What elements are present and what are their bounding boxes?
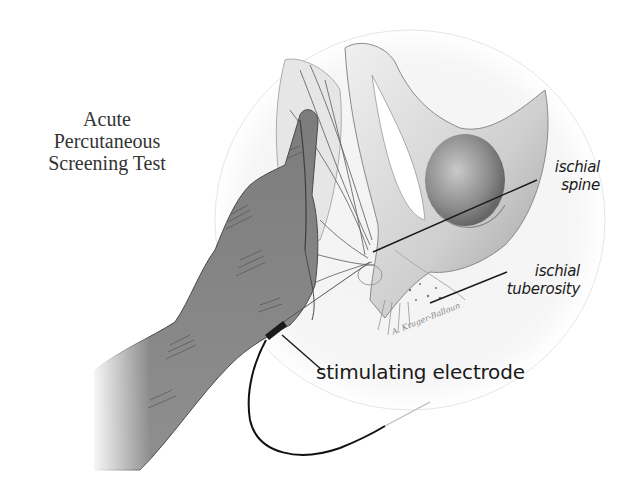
label-ischial-tuberosity: ischial tuberosity <box>498 262 580 298</box>
illustration: Acute Percutaneous Screening Test ischia… <box>0 0 625 487</box>
label-ischial-spine-line-2: spine <box>536 176 600 194</box>
label-ischial-spine-line-1: ischial <box>536 158 600 176</box>
title-line-2: Percutaneous <box>22 130 192 152</box>
title-line-3: Screening Test <box>22 152 192 174</box>
figure-title: Acute Percutaneous Screening Test <box>22 108 192 174</box>
label-stimulating-electrode: stimulating electrode <box>316 360 525 384</box>
anatomy-illustration <box>0 0 625 487</box>
label-ischial-spine: ischial spine <box>536 158 600 194</box>
title-line-1: Acute <box>22 108 192 130</box>
label-ischial-tuberosity-line-2: tuberosity <box>498 280 580 298</box>
label-ischial-tuberosity-line-1: ischial <box>498 262 580 280</box>
